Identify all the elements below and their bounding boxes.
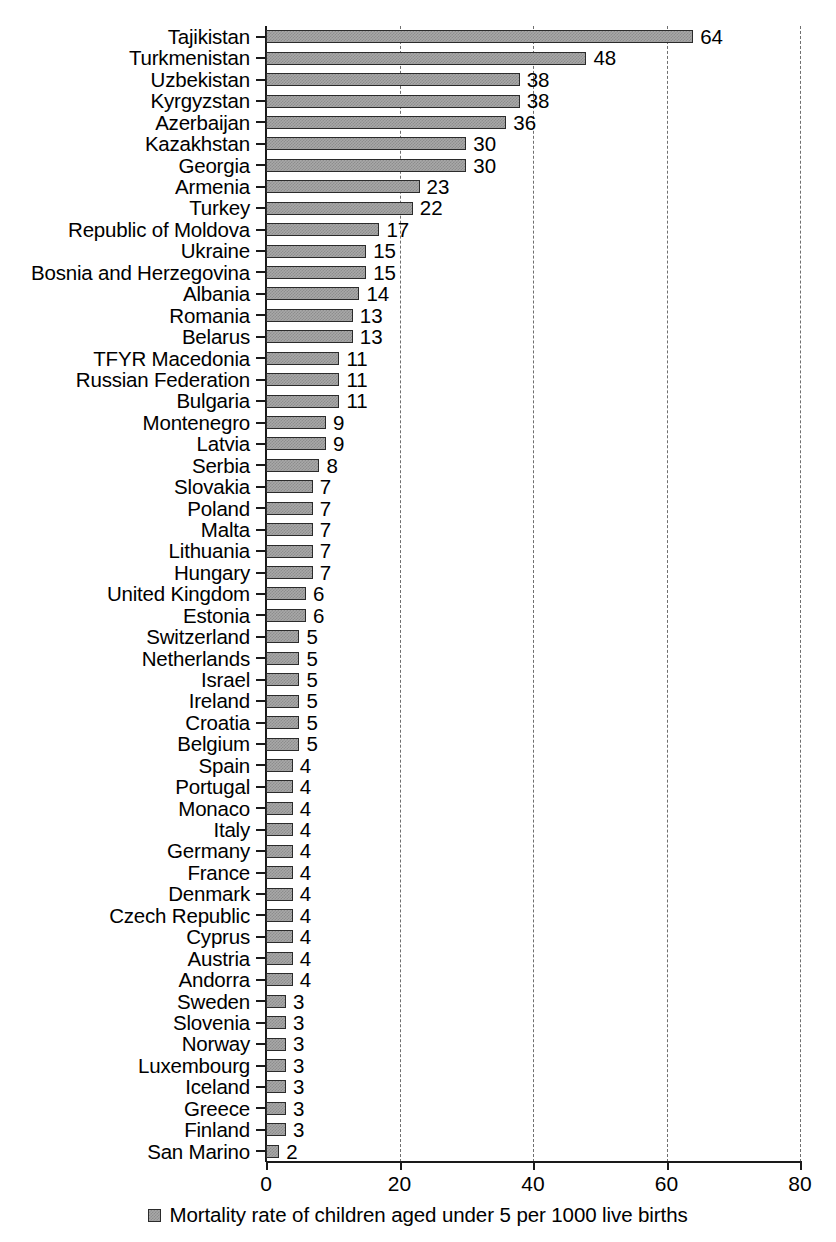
y-axis-tick: [256, 443, 266, 445]
bar-row: Austria4: [0, 948, 836, 969]
y-axis-tick: [256, 507, 266, 509]
y-axis-tick: [256, 722, 266, 724]
x-axis-tick-label: 60: [655, 1172, 678, 1196]
bar: [266, 609, 306, 622]
bar: [266, 459, 319, 472]
bar-value-label: 3: [293, 991, 304, 1012]
bar: [266, 1059, 286, 1072]
category-label: Turkey: [189, 197, 250, 218]
bar-value-label: 4: [300, 905, 311, 926]
y-axis-tick: [256, 850, 266, 852]
y-axis-tick: [256, 872, 266, 874]
y-axis-tick: [256, 1086, 266, 1088]
category-label: Switzerland: [146, 626, 250, 647]
y-axis-tick: [256, 293, 266, 295]
bar-value-label: 6: [313, 605, 324, 626]
bar: [266, 716, 299, 729]
bar: [266, 587, 306, 600]
legend-swatch-icon: [148, 1209, 161, 1222]
bar: [266, 502, 313, 515]
bar: [266, 673, 299, 686]
category-label: Croatia: [185, 712, 250, 733]
bar: [266, 437, 326, 450]
bar-row: Sweden3: [0, 991, 836, 1012]
bar-value-label: 4: [300, 926, 311, 947]
category-label: Malta: [201, 519, 250, 540]
bar-row: TFYR Macedonia11: [0, 348, 836, 369]
bar-row: Greece3: [0, 1098, 836, 1119]
category-label: Slovenia: [173, 1012, 250, 1033]
bar-value-label: 4: [300, 948, 311, 969]
y-axis-tick: [256, 936, 266, 938]
bar-value-label: 30: [473, 133, 496, 154]
y-axis-tick: [256, 400, 266, 402]
bar-value-label: 11: [346, 369, 367, 390]
category-label: TFYR Macedonia: [93, 348, 250, 369]
y-axis-tick: [256, 1043, 266, 1045]
y-axis-tick: [256, 829, 266, 831]
category-label: Hungary: [174, 562, 250, 583]
bar-value-label: 15: [373, 262, 396, 283]
bar-value-label: 5: [306, 733, 317, 754]
category-label: Slovakia: [174, 476, 250, 497]
x-axis-tick-label: 20: [388, 1172, 411, 1196]
bar: [266, 287, 359, 300]
bar: [266, 738, 299, 751]
bar-row: Montenegro9: [0, 412, 836, 433]
category-label: Bosnia and Herzegovina: [31, 262, 250, 283]
category-label: Republic of Moldova: [68, 219, 250, 240]
category-label: Denmark: [168, 883, 250, 904]
bar: [266, 523, 313, 536]
bar: [266, 73, 520, 86]
y-axis-tick: [256, 1065, 266, 1067]
y-axis-tick: [256, 700, 266, 702]
x-axis-tick-label: 0: [260, 1172, 272, 1196]
legend-label: Mortality rate of children aged under 5 …: [169, 1203, 687, 1227]
x-axis-tick-label: 80: [788, 1172, 811, 1196]
bar: [266, 759, 293, 772]
y-axis-tick: [256, 357, 266, 359]
bar-row: Cyprus4: [0, 926, 836, 947]
bar-row: Estonia6: [0, 605, 836, 626]
bar-row: Georgia30: [0, 155, 836, 176]
bar: [266, 202, 413, 215]
bar-row: Bosnia and Herzegovina15: [0, 262, 836, 283]
bar-row: Tajikistan64: [0, 26, 836, 47]
bar-value-label: 64: [700, 26, 723, 47]
y-axis-tick: [256, 979, 266, 981]
category-label: Luxembourg: [138, 1055, 250, 1076]
y-axis-tick: [256, 100, 266, 102]
bar: [266, 1145, 279, 1158]
x-axis-tick: [400, 1161, 402, 1170]
bar: [266, 780, 293, 793]
bar: [266, 309, 353, 322]
category-label: Greece: [184, 1098, 250, 1119]
bar-value-label: 9: [333, 433, 344, 454]
bar-row: United Kingdom6: [0, 583, 836, 604]
bar-value-label: 7: [320, 540, 331, 561]
y-axis-tick: [256, 807, 266, 809]
bar: [266, 630, 299, 643]
bar-value-label: 38: [527, 90, 550, 111]
bar-row: Norway3: [0, 1033, 836, 1054]
bar: [266, 566, 313, 579]
bar-row: Bulgaria11: [0, 390, 836, 411]
category-label: Ukraine: [181, 240, 250, 261]
category-label: Spain: [199, 755, 250, 776]
bar-value-label: 14: [366, 283, 389, 304]
bar-value-label: 36: [513, 112, 536, 133]
y-axis-tick: [256, 271, 266, 273]
bar: [266, 930, 293, 943]
bar: [266, 416, 326, 429]
bar-value-label: 11: [346, 348, 367, 369]
y-axis-tick: [256, 314, 266, 316]
bar-row: San Marino2: [0, 1141, 836, 1162]
y-axis-tick: [256, 79, 266, 81]
bar: [266, 480, 313, 493]
bar-value-label: 5: [306, 712, 317, 733]
bar-row: Slovenia3: [0, 1012, 836, 1033]
category-label: Estonia: [183, 605, 250, 626]
bar-value-label: 13: [360, 326, 383, 347]
bar-value-label: 48: [593, 47, 616, 68]
bar-row: France4: [0, 862, 836, 883]
